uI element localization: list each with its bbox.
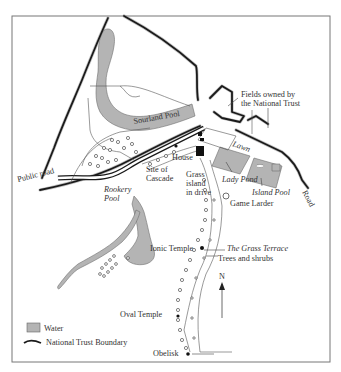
label-rookery-2: Pool [103,194,120,203]
leader-lines [192,98,268,354]
oval-temple-marker [176,314,179,317]
label-game-larder: Game Larder [230,199,274,208]
legend-item-water: Water [27,323,64,333]
cascade-marker [174,144,177,147]
legend-label-boundary: National Trust Boundary [46,338,128,347]
label-fields-1: Fields owned by [241,90,296,99]
water-swatch-icon [27,323,40,332]
north-label: N [219,272,225,281]
label-grass-island-3: in drive [186,188,212,197]
north-arrow-icon [219,282,225,290]
legend: Water National Trust Boundary [24,323,128,347]
island-pool-island [256,165,264,168]
label-ionic-temple: Ionic Temple [150,244,194,253]
label-obelisk: Obelisk [153,349,179,358]
estate-map: N Fields owned by the National Trust Sou… [0,0,341,372]
label-lady-pond: Lady Pond [221,175,259,184]
label-island-pool: Island Pool [251,188,291,197]
north-arrow: N [219,272,225,318]
label-house: House [172,153,193,162]
label-grass-terrace: The Grass Terrace [227,244,288,253]
ionic-temple-marker [200,246,204,250]
legend-item-boundary: National Trust Boundary [24,338,128,347]
legend-label-water: Water [44,324,64,333]
label-fields-2: the National Trust [241,99,301,108]
label-site-of-cascade-1: Site of [146,165,168,174]
small-pond-water [272,164,280,171]
boundary-line-icon [24,341,41,343]
game-larder-marker [223,193,229,199]
label-rookery-1: Rookery [103,185,132,194]
label-public-road: Public road [16,166,55,184]
label-site-of-cascade-2: Cascade [146,174,174,183]
label-grass-island-1: Grass [186,170,205,179]
house-building [196,146,204,156]
obelisk-marker [186,352,190,356]
label-trees-shrubs: Trees and shrubs [218,254,273,263]
label-oval-temple: Oval Temple [120,310,163,319]
label-road: Road [300,189,316,208]
rookery-channel-water [58,210,140,289]
label-grass-island-2: island [186,179,206,188]
